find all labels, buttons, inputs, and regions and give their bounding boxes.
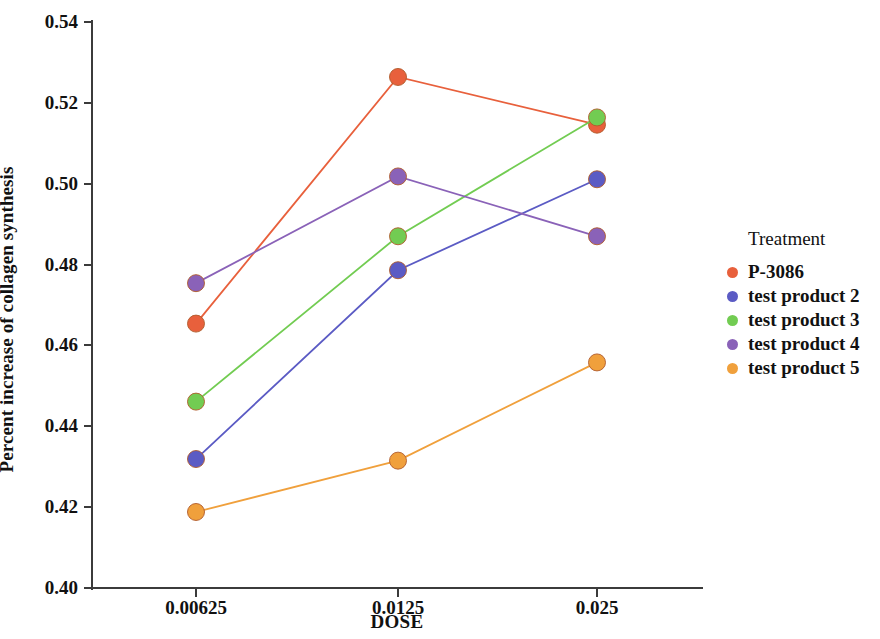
- series-line: [196, 362, 597, 512]
- chart-page: Percent increase of collagen synthesis 0…: [0, 0, 880, 639]
- series-p-3086: [188, 68, 606, 332]
- series-line: [196, 117, 597, 401]
- legend-item[interactable]: test product 2: [722, 284, 880, 308]
- legend-item[interactable]: test product 4: [722, 332, 880, 356]
- data-point: [188, 393, 205, 410]
- data-point: [188, 275, 205, 292]
- legend-color-dot-icon: [727, 315, 738, 326]
- legend: Treatment P-3086test product 2test produ…: [722, 228, 880, 380]
- legend-item-label: test product 2: [748, 285, 860, 307]
- legend-color-dot-icon: [727, 363, 738, 374]
- data-point: [390, 228, 407, 245]
- data-point: [188, 503, 205, 520]
- data-point: [188, 315, 205, 332]
- data-point: [390, 262, 407, 279]
- data-point: [390, 168, 407, 185]
- data-point: [589, 228, 606, 245]
- legend-items: P-3086test product 2test product 3test p…: [722, 260, 880, 380]
- series-test-product-2: [188, 171, 606, 468]
- data-point: [390, 452, 407, 469]
- legend-item-label: test product 4: [748, 333, 860, 355]
- series-line: [196, 179, 597, 459]
- data-point: [589, 171, 606, 188]
- legend-item[interactable]: test product 5: [722, 356, 880, 380]
- data-point: [188, 451, 205, 468]
- legend-color-dot-icon: [727, 291, 738, 302]
- legend-color-dot-icon: [727, 267, 738, 278]
- legend-item-label: test product 5: [748, 357, 860, 379]
- data-point: [390, 68, 407, 85]
- legend-color-dot-icon: [727, 339, 738, 350]
- series-test-product-3: [188, 109, 606, 410]
- x-axis-label: DOSE: [92, 611, 702, 633]
- legend-item-label: test product 3: [748, 309, 860, 331]
- series-line: [196, 77, 597, 324]
- legend-title: Treatment: [748, 228, 880, 250]
- data-point: [589, 109, 606, 126]
- legend-item-label: P-3086: [748, 261, 804, 283]
- series-test-product-5: [188, 354, 606, 521]
- legend-item[interactable]: P-3086: [722, 260, 880, 284]
- legend-item[interactable]: test product 3: [722, 308, 880, 332]
- data-point: [589, 354, 606, 371]
